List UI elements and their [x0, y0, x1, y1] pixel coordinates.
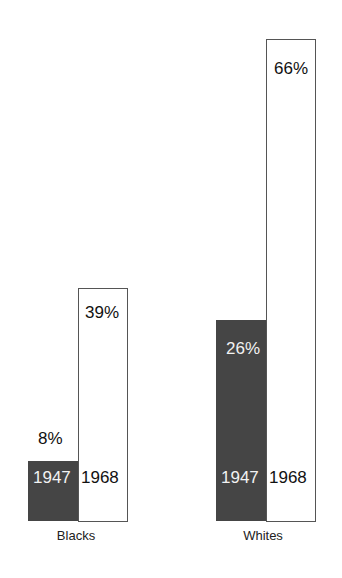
value-label-whites-1968: 66%	[274, 60, 308, 77]
year-label-blacks-1968: 1968	[81, 469, 119, 486]
category-label-blacks: Blacks	[26, 528, 126, 543]
value-label-whites-1947: 26%	[226, 340, 260, 357]
bar-whites-1968	[266, 39, 316, 522]
value-label-blacks-1968: 39%	[85, 304, 119, 321]
year-label-blacks-1947: 1947	[33, 469, 71, 486]
category-label-whites: Whites	[213, 528, 313, 543]
value-label-blacks-1947: 8%	[38, 430, 63, 447]
year-label-whites-1947: 1947	[221, 469, 259, 486]
year-label-whites-1968: 1968	[269, 469, 307, 486]
